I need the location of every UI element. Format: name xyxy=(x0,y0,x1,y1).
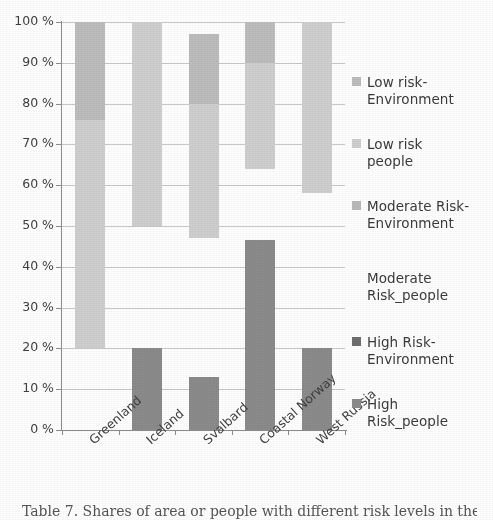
legend-item[interactable]: Low risk- Environment xyxy=(352,74,490,108)
y-axis-tick-label: 40 % xyxy=(8,260,54,272)
bar-group[interactable] xyxy=(189,22,219,430)
y-axis-tick-label: 30 % xyxy=(8,301,54,313)
x-axis-tick xyxy=(175,430,176,435)
y-axis-tick-label: 90 % xyxy=(8,56,54,68)
y-axis-tick-label: 100 % xyxy=(8,15,54,27)
y-axis-tick-label: 20 % xyxy=(8,341,54,353)
legend-swatch-icon xyxy=(352,77,361,86)
legend-label: Moderate Risk_people xyxy=(367,270,448,304)
bar-group[interactable] xyxy=(245,22,275,430)
bar-segment[interactable] xyxy=(189,238,219,377)
y-axis-tick-label: 50 % xyxy=(8,219,54,231)
bar-segment[interactable] xyxy=(245,22,275,63)
bar-segment[interactable] xyxy=(245,169,275,240)
x-axis-tick xyxy=(119,430,120,435)
plot-area xyxy=(62,22,345,430)
bar-segment[interactable] xyxy=(132,226,162,348)
bar-segment[interactable] xyxy=(189,104,219,239)
y-axis-tick-label: 70 % xyxy=(8,137,54,149)
legend-swatch-icon xyxy=(352,399,361,408)
figure-container: 100 %90 %80 %70 %60 %50 %40 %30 %20 %10 … xyxy=(0,0,493,520)
legend-item[interactable]: Moderate Risk_people xyxy=(352,270,490,304)
bar-group[interactable] xyxy=(302,22,332,430)
y-axis-tick-label: 0 % xyxy=(8,423,54,435)
bar-segment[interactable] xyxy=(189,34,219,103)
bar-segment[interactable] xyxy=(132,348,162,430)
x-axis-tick xyxy=(288,430,289,435)
y-axis-tick-label: 10 % xyxy=(8,382,54,394)
legend-label: Moderate Risk- Environment xyxy=(367,198,469,232)
legend-swatch-icon xyxy=(352,139,361,148)
figure-caption: Table 7. Shares of area or people with d… xyxy=(22,503,477,520)
legend-item[interactable]: High Risk- Environment xyxy=(352,334,490,368)
bar-segment[interactable] xyxy=(75,120,105,348)
x-axis-tick xyxy=(345,430,346,435)
legend-item[interactable]: High Risk_people xyxy=(352,396,490,430)
x-axis-tick xyxy=(62,430,63,435)
y-axis-tick-label: 60 % xyxy=(8,178,54,190)
legend-label: High Risk- Environment xyxy=(367,334,454,368)
legend-item[interactable]: Low risk people xyxy=(352,136,490,170)
y-axis-tick-label: 80 % xyxy=(8,97,54,109)
bar-group[interactable] xyxy=(132,22,162,430)
legend-swatch-icon xyxy=(352,273,361,282)
bar-group[interactable] xyxy=(75,22,105,430)
bar-segment[interactable] xyxy=(302,22,332,193)
legend-label: Low risk- Environment xyxy=(367,74,454,108)
bar-segment[interactable] xyxy=(132,22,162,226)
bar-segment[interactable] xyxy=(245,63,275,169)
legend-item[interactable]: Moderate Risk- Environment xyxy=(352,198,490,232)
x-axis-tick xyxy=(232,430,233,435)
legend-swatch-icon xyxy=(352,337,361,346)
legend-label: Low risk people xyxy=(367,136,422,170)
bar-segment[interactable] xyxy=(302,193,332,348)
bar-segment[interactable] xyxy=(245,240,275,430)
legend-label: High Risk_people xyxy=(367,396,448,430)
legend-swatch-icon xyxy=(352,201,361,210)
bar-segment[interactable] xyxy=(75,22,105,120)
bar-segment[interactable] xyxy=(75,348,105,430)
